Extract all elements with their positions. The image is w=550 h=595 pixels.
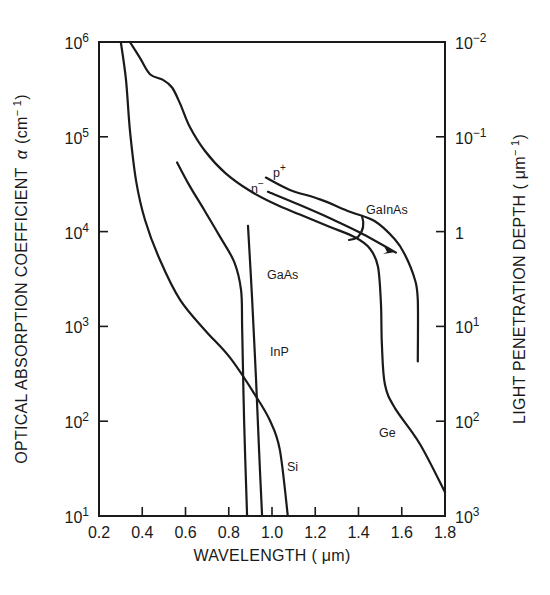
- y2-tick-label: 1: [455, 225, 464, 242]
- y-tick-label: 103: [65, 315, 90, 336]
- gainas-arrowhead: [383, 246, 396, 254]
- y-tick-label: 101: [65, 505, 90, 526]
- label-gaas: GaAs: [267, 268, 298, 282]
- y2-tick-label: 10−2: [455, 31, 487, 52]
- label-inp: InP: [270, 345, 289, 359]
- x-tick-label: 1.8: [434, 524, 456, 541]
- curve-inp: [248, 226, 262, 516]
- y2-axis-ticks: 10−210−11101102103: [436, 31, 487, 526]
- y-tick-label: 102: [65, 410, 90, 431]
- x-tick-label: 1.2: [304, 524, 326, 541]
- y2-axis-title: LIGHT PENETRATION DEPTH( μm− 1): [509, 134, 528, 424]
- x-axis-title: WAVELENGTH ( μm): [193, 547, 350, 564]
- absorption-chart: 0.20.40.60.81.01.21.41.61.8 106105104103…: [0, 0, 550, 595]
- x-tick-label: 0.8: [218, 524, 240, 541]
- y2-tick-label: 103: [455, 505, 480, 526]
- y-axis-ticks: 106105104103102101: [65, 31, 108, 526]
- x-tick-label: 1.6: [391, 524, 413, 541]
- label-n-minus: n−: [251, 178, 264, 196]
- label-si: Si: [287, 460, 298, 474]
- x-tick-label: 0.4: [131, 524, 153, 541]
- label-ge: Ge: [379, 426, 396, 440]
- curve-si: [121, 42, 288, 516]
- y-axis-title: OPTICAL ABSORPTION COEFFICIENTα(cm− 1): [11, 94, 30, 464]
- x-tick-label: 1.4: [347, 524, 369, 541]
- label-p-plus: p+: [273, 162, 286, 180]
- y-tick-label: 106: [65, 31, 90, 52]
- x-axis-ticks: 0.20.40.60.81.01.21.41.61.8: [88, 507, 456, 541]
- x-tick-label: 0.6: [174, 524, 196, 541]
- y-tick-label: 104: [65, 221, 90, 242]
- y2-tick-label: 10−1: [455, 126, 487, 147]
- x-tick-label: 1.0: [261, 524, 283, 541]
- x-tick-label: 0.2: [88, 524, 110, 541]
- y2-tick-label: 102: [455, 410, 480, 431]
- y-tick-label: 105: [65, 126, 90, 147]
- y2-tick-label: 101: [455, 315, 480, 336]
- label-gainas: GaInAs: [366, 203, 408, 217]
